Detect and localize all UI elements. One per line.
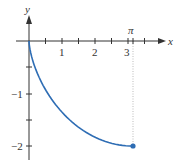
x-tick-label-3: 3 <box>124 46 130 58</box>
y-axis-label: y <box>24 3 30 15</box>
chart: y x π 1 2 3 −1 −2 <box>0 0 176 168</box>
y-tick-label-minus1: −1 <box>11 88 23 100</box>
x-axis-arrow-icon <box>158 38 166 44</box>
cycloid-curve <box>29 41 133 146</box>
endpoint-dot <box>130 143 135 148</box>
y-axis-arrow-icon <box>26 15 32 24</box>
x-tick-label-1: 1 <box>59 46 65 58</box>
x-axis-label: x <box>167 35 173 47</box>
pi-label: π <box>128 24 134 36</box>
y-tick-label-minus2: −2 <box>11 140 23 152</box>
x-tick-label-2: 2 <box>92 46 98 58</box>
